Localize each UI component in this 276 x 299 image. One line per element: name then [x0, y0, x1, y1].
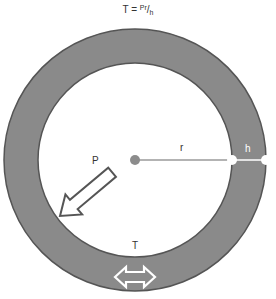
inner-wall-dot [227, 155, 237, 165]
pressure-label: P [92, 155, 99, 166]
tension-label: T [132, 240, 138, 251]
radius-label: r [180, 142, 183, 153]
outer-wall-dot [261, 155, 271, 165]
thickness-label: h [245, 143, 251, 154]
vessel-diagram [0, 0, 276, 299]
center-dot [130, 155, 140, 165]
